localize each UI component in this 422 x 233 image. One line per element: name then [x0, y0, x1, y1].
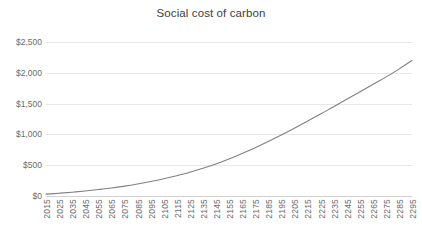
x-tick-label: 2295 [408, 199, 418, 219]
x-tick-label: 2115 [173, 199, 183, 218]
y-tick-label: $2,500 [16, 37, 42, 47]
x-tick-label: 2225 [317, 199, 327, 219]
x-tick-label: 2135 [199, 199, 209, 219]
y-tick-label: $0 [33, 191, 42, 201]
x-tick-label: 2245 [343, 199, 353, 219]
chart-title: Social cost of carbon [0, 7, 422, 19]
x-tick-label: 2185 [264, 199, 274, 219]
x-tick-label: 2015 [42, 199, 52, 219]
series-path [46, 60, 412, 194]
x-axis: 2015202520352045205520652075208520952105… [46, 199, 412, 233]
x-tick-label: 2235 [330, 199, 340, 219]
y-tick-label: $1,500 [16, 99, 42, 109]
x-tick-label: 2265 [369, 199, 379, 219]
x-tick-label: 2055 [94, 199, 104, 219]
x-tick-label: 2155 [225, 199, 235, 219]
y-tick-label: $2,000 [16, 68, 42, 78]
x-tick-label: 2145 [212, 199, 222, 219]
gridline-0 [46, 196, 412, 197]
x-tick-label: 2045 [81, 199, 91, 219]
x-tick-label: 2175 [251, 199, 261, 219]
y-axis: $0$500$1,000$1,500$2,000$2,500 [0, 42, 42, 196]
y-tick-label: $1,000 [16, 129, 42, 139]
plot-area [46, 42, 412, 196]
x-tick-label: 2255 [356, 199, 366, 219]
x-tick-label: 2205 [290, 199, 300, 219]
y-tick-label: $500 [23, 160, 42, 170]
x-tick-label: 2105 [160, 199, 170, 219]
series-line-social-cost-of-carbon [46, 42, 412, 196]
x-tick-label: 2035 [68, 199, 78, 219]
chart-container: Social cost of carbon $0$500$1,000$1,500… [0, 0, 422, 233]
x-tick-label: 2285 [395, 199, 405, 219]
x-tick-label: 2025 [55, 199, 65, 219]
x-tick-label: 2065 [107, 199, 117, 219]
x-tick-label: 2075 [120, 199, 130, 219]
x-tick-label: 2195 [277, 199, 287, 219]
x-tick-label: 2165 [238, 199, 248, 219]
x-tick-label: 2095 [147, 199, 157, 219]
x-tick-label: 2125 [186, 199, 196, 219]
x-tick-label: 2085 [134, 199, 144, 219]
x-tick-label: 2215 [303, 199, 313, 219]
x-tick-label: 2275 [382, 199, 392, 219]
